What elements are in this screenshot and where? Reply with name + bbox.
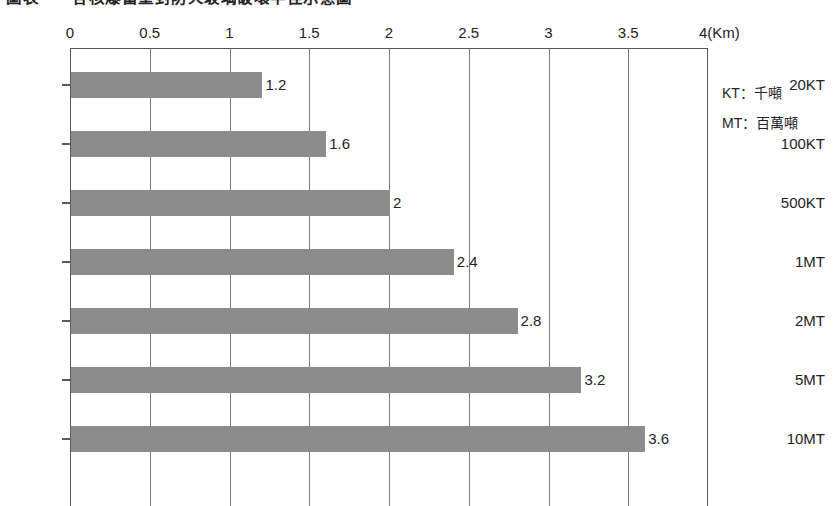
bar-value-100KT: 1.6 (325, 135, 350, 152)
x-tick-label-1: 1 (225, 24, 233, 41)
bar-20KT (71, 72, 262, 98)
y-tick-1MT (62, 261, 70, 263)
category-label-10MT: 10MT (773, 430, 835, 447)
category-label-1MT: 1MT (773, 253, 835, 270)
bar-500KT (71, 190, 390, 216)
bar-value-20KT: 1.2 (261, 76, 286, 93)
y-tick-10MT (62, 438, 70, 440)
category-label-500KT: 500KT (773, 194, 835, 211)
legend-entry-KT: KT：千噸 (722, 78, 798, 108)
x-tick-label-0-5: 0.5 (139, 24, 160, 41)
bar-value-1MT: 2.4 (453, 253, 478, 270)
x-tick-label-2-5: 2.5 (458, 24, 479, 41)
y-tick-5MT (62, 379, 70, 381)
x-tick-label-0: 0 (66, 24, 74, 41)
category-label-2MT: 2MT (773, 312, 835, 329)
bar-10MT (71, 426, 645, 452)
y-tick-2MT (62, 320, 70, 322)
bar-value-10MT: 3.6 (644, 430, 669, 447)
bar-value-5MT: 3.2 (580, 371, 605, 388)
x-axis-unit-label: 4(Km) (699, 24, 740, 41)
bar-100KT (71, 131, 326, 157)
legend: KT：千噸MT：百萬噸 (722, 78, 798, 138)
bar-value-500KT: 2 (389, 194, 401, 211)
chart-title: 圖表一 各核爆當量對防火玻璃破壞半徑示意圖 (6, 0, 353, 9)
plot-area (70, 48, 708, 506)
bar-1MT (71, 249, 454, 275)
y-tick-20KT (62, 84, 70, 86)
category-label-5MT: 5MT (773, 371, 835, 388)
x-tick-label-2: 2 (385, 24, 393, 41)
bar-2MT (71, 308, 518, 334)
x-tick-label-1-5: 1.5 (299, 24, 320, 41)
x-tick-label-3: 3 (544, 24, 552, 41)
x-tick-label-3-5: 3.5 (618, 24, 639, 41)
bar-value-2MT: 2.8 (517, 312, 542, 329)
y-tick-500KT (62, 202, 70, 204)
y-tick-100KT (62, 143, 70, 145)
legend-entry-MT: MT：百萬噸 (722, 108, 798, 138)
bar-5MT (71, 367, 581, 393)
